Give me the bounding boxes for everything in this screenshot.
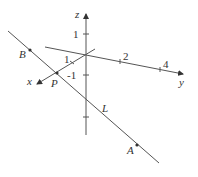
point-B: B bbox=[19, 48, 32, 60]
z-axis-label: z bbox=[74, 8, 80, 20]
line-label-L: L bbox=[101, 102, 108, 114]
point-A: A bbox=[126, 143, 139, 156]
z-axis: z 1 -1 bbox=[67, 8, 89, 135]
x-axis: 1 x bbox=[26, 49, 95, 87]
y-tick-label-4: 4 bbox=[163, 58, 169, 70]
y-axis-label: y bbox=[178, 76, 184, 88]
point-label-P: P bbox=[50, 77, 58, 89]
z-tick-label-neg1: -1 bbox=[67, 69, 76, 81]
diagram-figure: z 1 -1 2 4 y 1 x L B bbox=[0, 0, 198, 177]
point-label-A: A bbox=[126, 144, 134, 156]
x-tick-label-1: 1 bbox=[64, 53, 70, 65]
y-tick-label-2: 2 bbox=[123, 50, 129, 62]
point-label-B: B bbox=[19, 48, 26, 60]
z-tick-label-1: 1 bbox=[73, 28, 79, 40]
x-axis-label: x bbox=[26, 75, 32, 87]
